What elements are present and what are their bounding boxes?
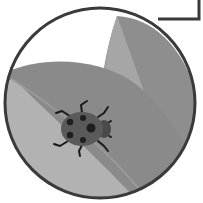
circle-scene: [0, 0, 203, 203]
ladybug-illustration: [0, 0, 203, 203]
corner-box-outline: [158, 0, 199, 19]
